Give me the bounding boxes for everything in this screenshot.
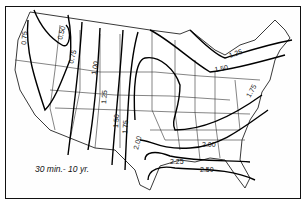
isopluvial-map: 0.50 0.75 0.75 1.00 1.25 1.25 1.50 1.50 … <box>0 0 305 203</box>
isoline-label: 2.50 <box>200 166 214 173</box>
isoline-label: 1.25 <box>100 90 108 104</box>
isoline-label: 2.00 <box>202 141 216 148</box>
isoline-label: 0.75 <box>20 31 28 45</box>
isoline-label: 1.75 <box>121 120 129 134</box>
isoline-label: 1.50 <box>112 114 120 128</box>
isoline-label: 2.25 <box>170 158 184 165</box>
map-caption: 30 min.- 10 yr. <box>35 164 89 174</box>
